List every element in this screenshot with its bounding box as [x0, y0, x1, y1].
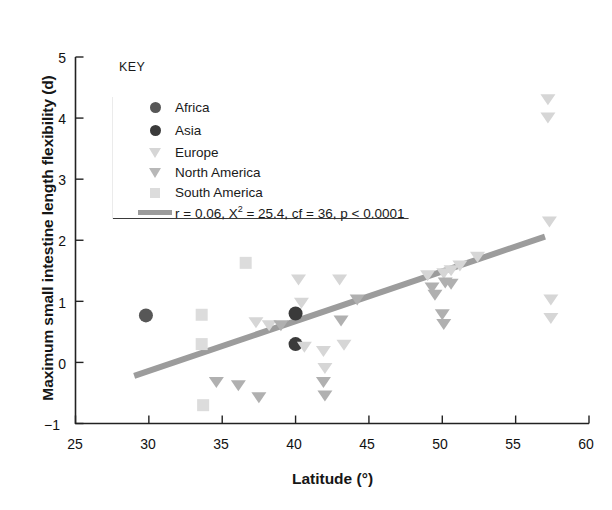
- data-point-europe: [543, 295, 558, 306]
- legend-label-statistics: r = 0.06, X2 = 25.4, cf = 36, p < 0.0001: [175, 204, 404, 221]
- legend-label-asia: Asia: [175, 123, 201, 138]
- legend: Africa Asia Europe North America South A: [113, 77, 409, 218]
- stat-r: r = 0.06, X: [175, 206, 238, 221]
- data-point-north-america: [209, 377, 224, 388]
- legend-label-north-america: North America: [175, 165, 261, 180]
- data-point-south-america: [196, 309, 208, 321]
- data-point-north-america: [427, 290, 442, 301]
- legend-item-north-america[interactable]: North America: [135, 163, 261, 182]
- stat-rest: = 25.4, cf = 36, p < 0.0001: [243, 206, 405, 221]
- data-point-europe: [317, 363, 332, 374]
- data-point-europe: [291, 274, 306, 285]
- data-point-north-america: [334, 315, 349, 326]
- data-point-south-america: [240, 257, 252, 269]
- legend-item-statistics: r = 0.06, X2 = 25.4, cf = 36, p < 0.0001: [135, 203, 404, 222]
- data-point-europe: [316, 346, 331, 357]
- legend-item-asia[interactable]: Asia: [135, 121, 201, 140]
- regression-trendline: [134, 237, 545, 376]
- data-point-europe: [542, 216, 557, 227]
- data-point-europe: [543, 313, 558, 324]
- data-point-north-america: [436, 319, 451, 330]
- data-point-south-america: [197, 399, 209, 411]
- data-point-north-america: [435, 309, 450, 320]
- legend-item-europe[interactable]: Europe: [135, 143, 219, 162]
- legend-marker-square-south-america: [135, 188, 175, 198]
- legend-marker-circle-asia: [135, 125, 175, 136]
- legend-item-africa[interactable]: Africa: [135, 98, 210, 117]
- data-point-europe: [336, 340, 351, 351]
- legend-marker-trendline: [135, 210, 175, 215]
- data-point-asia: [289, 307, 303, 321]
- data-point-europe: [540, 113, 555, 124]
- legend-title: KEY: [119, 60, 145, 74]
- legend-marker-triangle-north-america: [135, 168, 175, 178]
- legend-marker-circle-africa: [135, 102, 175, 113]
- scatter-chart-figure: Maximum small intestine length flexibili…: [0, 0, 612, 510]
- data-point-north-america: [251, 392, 266, 403]
- data-point-africa: [139, 308, 153, 322]
- legend-label-europe: Europe: [175, 145, 219, 160]
- legend-marker-triangle-europe: [135, 148, 175, 158]
- data-point-europe: [332, 274, 347, 285]
- data-point-europe: [540, 94, 555, 105]
- legend-label-africa: Africa: [175, 100, 210, 115]
- data-point-europe: [248, 317, 263, 328]
- legend-item-south-america[interactable]: South America: [135, 183, 263, 202]
- data-point-south-america: [196, 338, 208, 350]
- data-point-north-america: [231, 380, 246, 391]
- data-point-north-america: [316, 377, 331, 388]
- legend-label-south-america: South America: [175, 185, 263, 200]
- data-point-north-america: [317, 391, 332, 402]
